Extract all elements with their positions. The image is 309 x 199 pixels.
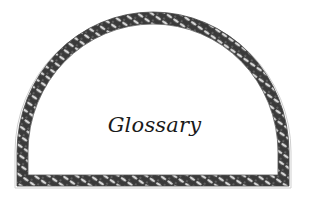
arch-frame-graphic <box>0 0 309 199</box>
page-title: Glossary <box>0 113 309 137</box>
